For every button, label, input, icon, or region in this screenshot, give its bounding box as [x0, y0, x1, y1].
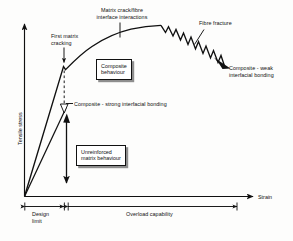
box-composite-behaviour: Composite behaviour [96, 59, 132, 80]
strong-bond-hollow-arrowhead [60, 104, 68, 113]
label-matrix-crack-line1: Matrix crack/fibre [86, 7, 158, 14]
label-matrix-crack-interactions: Matrix crack/fibre interface interaction… [86, 7, 158, 20]
label-weak-bond-line1: Composite - weak [229, 65, 274, 72]
label-first-matrix-line2: cracking [51, 40, 78, 47]
stress-strain-diagram: Matrix crack/fibre interface interaction… [0, 0, 293, 241]
dimension-label-design-limit: Design limit [32, 211, 49, 224]
box-unreinforced-matrix-behaviour: Unreinforced matrix behaviour [76, 145, 126, 166]
label-first-matrix-line1: First matrix [51, 33, 78, 40]
label-matrix-crack-line2: interface interactions [86, 14, 158, 21]
label-weak-bond-line2: interfacial bonding [229, 72, 274, 79]
x-axis-label: Strain [258, 194, 272, 200]
dimension-lines [25, 203, 237, 211]
label-strong-interfacial-bonding: Composite - strong interfacial bonding [74, 101, 167, 108]
label-fibre-fracture: Fibre fracture [199, 20, 232, 27]
box-unreinforced-line2: matrix behaviour [81, 155, 121, 162]
label-first-matrix-cracking: First matrix cracking [51, 33, 78, 46]
design-limit-line1: Design [32, 211, 49, 218]
box-unreinforced-line1: Unreinforced [81, 149, 121, 156]
y-axis-label: Tensile stress [17, 112, 23, 145]
box-composite-line2: behaviour [101, 69, 127, 76]
sawtooth-fibre-fracture [161, 25, 225, 66]
diagram-canvas [0, 0, 293, 241]
box-composite-line1: Composite [101, 63, 127, 70]
dimension-label-overload-capability: Overload capability [126, 211, 173, 218]
design-limit-line2: limit [32, 218, 49, 225]
unreinforced-arrow-head-top [63, 114, 70, 124]
label-weak-interfacial-bonding: Composite - weak interfacial bonding [229, 65, 274, 78]
matrix-curve [25, 108, 67, 197]
axis-group [25, 24, 254, 197]
composite-curve [25, 25, 162, 196]
